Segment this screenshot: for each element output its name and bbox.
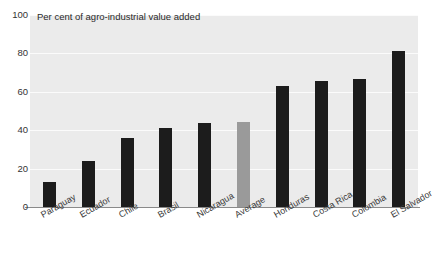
bar-chart: 020406080100 Per cent of agro-industrial… <box>0 0 439 267</box>
y-tick-label: 0 <box>2 202 28 212</box>
y-tick-label: 40 <box>2 125 28 135</box>
y-axis-labels: 020406080100 <box>0 0 28 267</box>
bar-costa-rica[interactable] <box>315 81 328 207</box>
bar-ecuador[interactable] <box>82 161 95 207</box>
bars-layer <box>30 15 418 207</box>
bar-chile[interactable] <box>121 138 134 207</box>
y-tick-label: 60 <box>2 87 28 97</box>
y-tick-label: 100 <box>2 10 28 20</box>
bar-nicaragua[interactable] <box>198 123 211 207</box>
bar-el-salvador[interactable] <box>392 51 405 207</box>
y-tick-label: 20 <box>2 164 28 174</box>
bar-average[interactable] <box>237 122 250 207</box>
y-tick-label: 80 <box>2 48 28 58</box>
bar-brasil[interactable] <box>159 128 172 207</box>
bar-honduras[interactable] <box>276 86 289 207</box>
x-axis-labels: ParaguayEcuadorChileBrasilNicaraguaAvera… <box>30 207 418 267</box>
chart-title: Per cent of agro-industrial value added <box>37 11 200 22</box>
bar-colombia[interactable] <box>353 79 366 207</box>
